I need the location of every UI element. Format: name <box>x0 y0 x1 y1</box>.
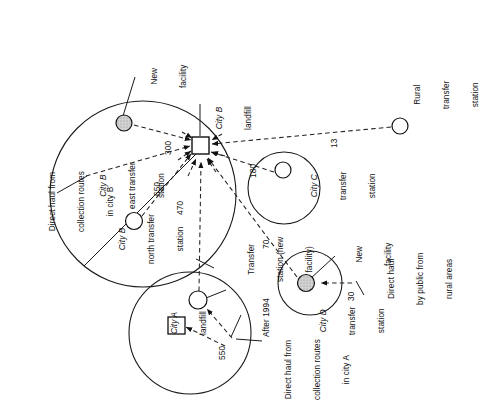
flow-label-70: 70 <box>262 239 272 249</box>
label-city-a-landfill: City A landfill <box>151 311 228 335</box>
leader-after-1994 <box>231 315 241 337</box>
flow-city-c <box>211 152 274 172</box>
flow-label-180: 180 <box>249 164 259 178</box>
label-city-a-transfer-station: Transfer station (new facility) <box>228 237 334 282</box>
node-city-c-station <box>275 162 291 178</box>
leader-direct-haul-city-a <box>236 339 262 341</box>
leader-transfer-station-new <box>206 290 226 298</box>
node-city-b-landfill <box>192 137 209 154</box>
label-direct-haul-city-a: Direct haul from collection routes in ci… <box>265 339 371 400</box>
label-after-1994: After 1994 <box>243 298 291 337</box>
label-direct-haul-rural: Direct haul by public from rural areas <box>368 253 474 305</box>
flow-stub-a <box>178 151 191 160</box>
label-direct-haul-city-b: Direct haul from collection routes in ci… <box>29 171 135 232</box>
node-city-a-transfer-station <box>189 291 207 309</box>
flow-label-470: 470 <box>176 201 186 215</box>
leader-direct-haul-rural <box>356 281 364 295</box>
label-city-d-transfer-station: City D transfer station <box>300 306 406 335</box>
flow-stub-b <box>188 159 196 176</box>
flow-stub-d <box>182 132 192 138</box>
node-new-facility-city-b <box>116 115 132 131</box>
flow-label-650: 650 <box>153 182 163 196</box>
label-city-b-landfill: City B landfill <box>196 106 273 130</box>
label-new-facility-city-b: New facility <box>131 64 208 88</box>
flow-label-300: 300 <box>164 141 174 155</box>
node-rural-station <box>392 118 408 134</box>
label-city-c-transfer-station: City C transfer station <box>291 171 397 200</box>
flow-label-550: 550 <box>218 346 228 360</box>
label-rural-transfer-station: Rural transfer station <box>394 80 483 109</box>
flow-label-13: 13 <box>330 138 340 148</box>
flow-stub-c <box>207 159 216 172</box>
flow-label-30: 30 <box>347 291 357 301</box>
